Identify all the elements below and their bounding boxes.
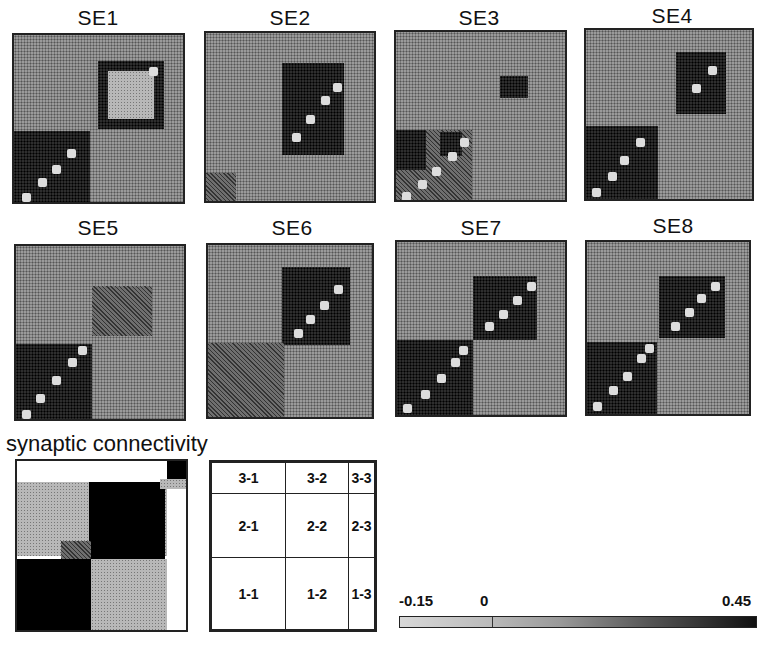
panel-se5: SE5 <box>10 210 186 420</box>
cell-2-1: 2-1 <box>211 493 286 558</box>
colorbar <box>399 616 757 628</box>
cell-2-3: 2-3 <box>348 493 375 558</box>
panel-se2: SE2 <box>202 0 378 200</box>
connectivity-title: synaptic connectivity <box>6 431 208 457</box>
panel-title: SE1 <box>10 6 186 30</box>
heatmap-se7 <box>395 240 567 417</box>
panel-se8: SE8 <box>585 210 761 420</box>
heatmap-se5 <box>14 244 186 421</box>
panel-se4: SE4 <box>584 0 760 200</box>
cell-3-1: 3-1 <box>211 462 286 494</box>
panel-se3: SE3 <box>391 0 567 200</box>
panel-title: SE7 <box>393 216 569 240</box>
panel-se7: SE7 <box>393 210 569 420</box>
panel-title: SE3 <box>391 6 567 30</box>
colorbar-min-label: -0.15 <box>399 592 433 609</box>
cell-2-2: 2-2 <box>285 493 349 558</box>
panel-title: SE4 <box>584 4 760 28</box>
panel-title: SE8 <box>585 214 761 238</box>
heatmap-se1 <box>12 33 185 204</box>
cell-1-1: 1-1 <box>211 557 286 630</box>
block-label-grid: 3-1 3-2 3-3 2-1 2-2 2-3 1-1 1-2 1-3 <box>209 460 377 632</box>
colorbar-zero-tick <box>492 617 493 627</box>
colorbar-max-label: 0.45 <box>722 592 751 609</box>
cell-1-2: 1-2 <box>285 557 349 630</box>
panel-title: SE2 <box>202 6 378 30</box>
cell-3-3: 3-3 <box>348 462 375 494</box>
connectivity-matrix <box>15 459 188 632</box>
colorbar-zero-label: 0 <box>480 592 488 609</box>
heatmap-se6 <box>206 243 374 419</box>
cell-3-2: 3-2 <box>285 462 349 494</box>
heatmap-se8 <box>585 240 751 416</box>
panel-title: SE5 <box>10 216 186 240</box>
heatmap-se4 <box>584 28 754 201</box>
panel-se6: SE6 <box>204 210 380 420</box>
panel-title: SE6 <box>204 216 380 240</box>
panel-se1: SE1 <box>10 0 186 200</box>
cell-1-3: 1-3 <box>348 557 375 630</box>
heatmap-se2 <box>204 31 376 203</box>
heatmap-se3 <box>394 30 567 202</box>
